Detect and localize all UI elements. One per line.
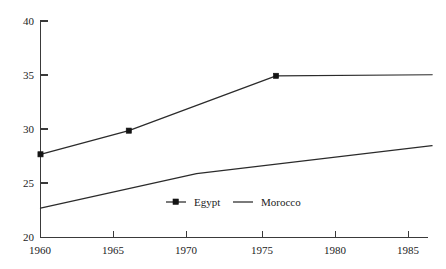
- chart-canvas: 40 35 30 25 20 1960 1965 1970 1975 1980 …: [0, 0, 446, 269]
- chart-background: [0, 0, 446, 269]
- legend-marker-egypt: [173, 199, 178, 204]
- x-tick-label: 1985: [397, 244, 420, 256]
- x-tick-label: 1980: [324, 244, 347, 256]
- data-point-marker: [38, 152, 43, 157]
- y-tick-label: 30: [23, 123, 35, 135]
- legend-label-morocco: Morocco: [261, 196, 301, 208]
- x-tick-label: 1965: [102, 244, 125, 256]
- y-tick-label: 40: [23, 15, 35, 27]
- x-tick-label: 1975: [251, 244, 274, 256]
- data-point-marker: [273, 73, 278, 78]
- legend-label-egypt: Egypt: [194, 196, 220, 208]
- x-tick-label: 1960: [29, 244, 52, 256]
- data-point-marker: [126, 128, 131, 133]
- y-tick-label: 25: [23, 177, 35, 189]
- y-tick-label: 35: [23, 69, 35, 81]
- line-chart: 40 35 30 25 20 1960 1965 1970 1975 1980 …: [0, 0, 446, 269]
- y-tick-label: 20: [23, 231, 35, 243]
- x-tick-label: 1970: [175, 244, 198, 256]
